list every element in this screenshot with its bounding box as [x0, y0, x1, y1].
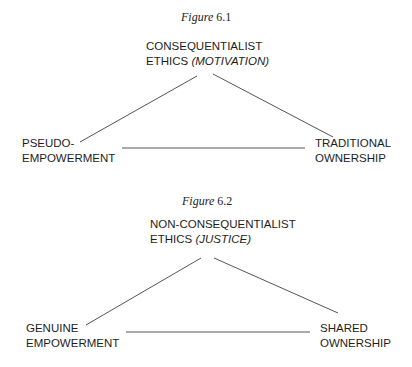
node-line-1: GENUINE — [26, 321, 119, 336]
figure-label: Figure — [181, 10, 213, 24]
node-line-1: TRADITIONAL — [315, 136, 391, 151]
node-line-1: NON-CONSEQUENTIALIST — [150, 217, 296, 232]
node-line-1: PSEUDO- — [22, 136, 115, 151]
node-traditional-ownership: TRADITIONAL OWNERSHIP — [315, 136, 391, 165]
node-line-2-plain: ETHICS — [150, 233, 195, 245]
node-line-2: OWNERSHIP — [320, 336, 391, 351]
node-line-2-italic: (MOTIVATION) — [191, 55, 269, 67]
node-line-2-plain: ETHICS — [146, 55, 191, 67]
edge-top-to-left-fig2 — [86, 258, 201, 325]
node-consequentialist-ethics: CONSEQUENTIALIST ETHICS (MOTIVATION) — [146, 39, 269, 68]
node-line-2: EMPOWERMENT — [22, 151, 115, 166]
node-non-consequentialist-ethics: NON-CONSEQUENTIALIST ETHICS (JUSTICE) — [150, 217, 296, 246]
node-line-2: ETHICS (MOTIVATION) — [146, 54, 269, 69]
node-line-2: EMPOWERMENT — [26, 336, 119, 351]
edge-top-to-right-fig2 — [214, 258, 338, 313]
node-line-1: SHARED — [320, 321, 391, 336]
figure-caption-6-2: Figure 6.2 — [182, 194, 232, 208]
node-line-1: CONSEQUENTIALIST — [146, 39, 269, 54]
edge-top-to-left-fig1 — [80, 76, 197, 142]
node-line-2: ETHICS (JUSTICE) — [150, 232, 296, 247]
figure-caption-6-1: Figure 6.1 — [181, 10, 231, 24]
node-line-2: OWNERSHIP — [315, 151, 391, 166]
edge-top-to-right-fig1 — [213, 74, 333, 137]
node-genuine-empowerment: GENUINE EMPOWERMENT — [26, 321, 119, 350]
node-shared-ownership: SHARED OWNERSHIP — [320, 321, 391, 350]
node-line-2-italic: (JUSTICE) — [195, 233, 251, 245]
figure-label: Figure — [182, 194, 214, 208]
figure-number: 6.1 — [216, 10, 231, 24]
node-pseudo-empowerment: PSEUDO- EMPOWERMENT — [22, 136, 115, 165]
figure-number: 6.2 — [217, 194, 232, 208]
